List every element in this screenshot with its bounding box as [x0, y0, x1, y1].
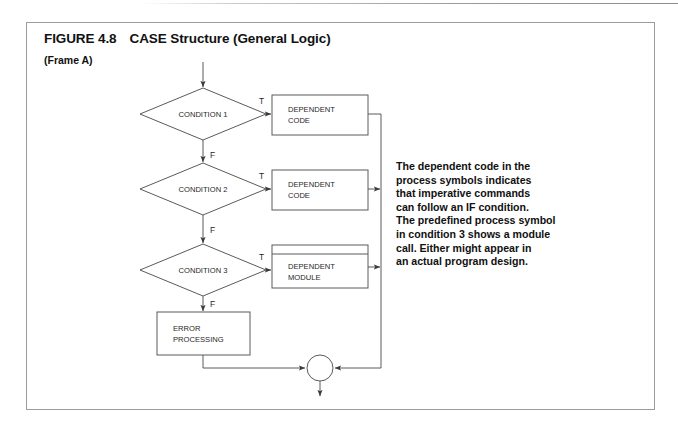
condition-2-true-label: T — [259, 171, 264, 181]
condition-3-true-label: T — [259, 252, 264, 262]
process-dependent-code-1: DEPENDENT CODE — [272, 95, 368, 135]
condition-1-false-label: F — [210, 150, 215, 160]
dependent-module-line2: MODULE — [288, 273, 321, 282]
dependent-code-2-line1: DEPENDENT — [288, 180, 335, 189]
explanatory-note: The dependent code in the process symbol… — [396, 160, 596, 269]
condition-1-label: CONDITION 1 — [179, 110, 228, 119]
condition-2-label: CONDITION 2 — [179, 185, 228, 194]
collector-bus — [335, 114, 381, 368]
error-path-wire — [203, 355, 305, 368]
predefined-process-dependent-module: DEPENDENT MODULE — [272, 245, 368, 288]
condition-3-label: CONDITION 3 — [179, 266, 228, 275]
process-error-processing: ERROR PROCESSING — [157, 312, 250, 355]
figure-page: FIGURE 4.8CASE Structure (General Logic)… — [0, 0, 678, 436]
condition-2-false-label: F — [210, 225, 215, 235]
condition-1-true-label: T — [259, 96, 264, 106]
dependent-code-1-line2: CODE — [288, 116, 310, 125]
dependent-module-line1: DEPENDENT — [288, 262, 335, 271]
dependent-code-2-line2: CODE — [288, 191, 310, 200]
dependent-code-1-line1: DEPENDENT — [288, 105, 335, 114]
condition-3-false-label: F — [210, 299, 215, 309]
process-dependent-code-2: DEPENDENT CODE — [272, 170, 368, 210]
error-processing-line1: ERROR — [173, 324, 201, 333]
true-branch-wires — [266, 114, 271, 270]
error-processing-line2: PROCESSING — [173, 335, 224, 344]
merge-connector — [307, 355, 333, 396]
